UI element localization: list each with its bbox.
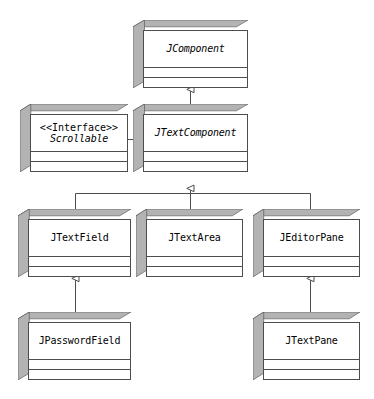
class-name-cell: JTextArea — [147, 220, 242, 256]
attributes-compartment — [144, 67, 247, 77]
class-name: JTextPane — [285, 335, 337, 347]
class-stereotype: <<Interface>> — [40, 122, 118, 134]
attributes-compartment — [147, 256, 242, 266]
box-front-face: JComponent — [143, 30, 248, 88]
attributes-compartment — [31, 151, 127, 161]
operations-compartment — [264, 266, 359, 276]
box-front-face: <<Interface>> Scrollable — [30, 114, 128, 172]
operations-compartment — [147, 266, 242, 276]
class-name: JEditorPane — [279, 232, 343, 244]
class-name-cell: JTextField — [29, 220, 130, 256]
class-name-cell: JEditorPane — [264, 220, 359, 256]
class-box-jcomponent[interactable]: JComponent — [133, 20, 248, 88]
uml-class-diagram: JComponent <<Interface>> Scrollable — [0, 0, 374, 399]
class-name: Scrollable — [40, 133, 118, 145]
class-box-jpasswordfield[interactable]: JPasswordField — [18, 312, 131, 380]
attributes-compartment — [29, 359, 130, 369]
box-front-face: JTextPane — [263, 322, 360, 380]
box-front-face: JTextArea — [146, 219, 243, 277]
attributes-compartment — [264, 359, 359, 369]
class-box-jtextfield[interactable]: JTextField — [18, 209, 131, 277]
class-name-cell: JTextPane — [264, 323, 359, 359]
box-front-face: JTextField — [28, 219, 131, 277]
operations-compartment — [144, 77, 247, 87]
class-box-jtextpane[interactable]: JTextPane — [253, 312, 360, 380]
operations-compartment — [31, 161, 127, 171]
box-front-face: JEditorPane — [263, 219, 360, 277]
box-front-face: JPasswordField — [28, 322, 131, 380]
class-name: JPasswordField — [39, 335, 121, 347]
class-name: JTextArea — [168, 232, 220, 244]
class-name: JComponent — [166, 43, 224, 55]
class-name-cell: JPasswordField — [29, 323, 130, 359]
class-name: JTextComponent — [155, 127, 237, 139]
generalization-bus-horizontal — [76, 194, 311, 210]
operations-compartment — [29, 369, 130, 379]
class-name-stack: <<Interface>> Scrollable — [40, 122, 118, 145]
class-box-scrollable[interactable]: <<Interface>> Scrollable — [20, 104, 128, 172]
operations-compartment — [264, 369, 359, 379]
operations-compartment — [144, 161, 247, 171]
class-box-jtextcomponent[interactable]: JTextComponent — [133, 104, 248, 172]
box-front-face: JTextComponent — [143, 114, 248, 172]
class-name: JTextField — [50, 232, 108, 244]
class-box-jtextarea[interactable]: JTextArea — [136, 209, 243, 277]
attributes-compartment — [29, 256, 130, 266]
operations-compartment — [29, 266, 130, 276]
attributes-compartment — [264, 256, 359, 266]
class-name-cell: JComponent — [144, 31, 247, 67]
attributes-compartment — [144, 151, 247, 161]
class-name-cell: JTextComponent — [144, 115, 247, 151]
class-box-jeditorpane[interactable]: JEditorPane — [253, 209, 360, 277]
class-name-cell: <<Interface>> Scrollable — [31, 115, 127, 151]
